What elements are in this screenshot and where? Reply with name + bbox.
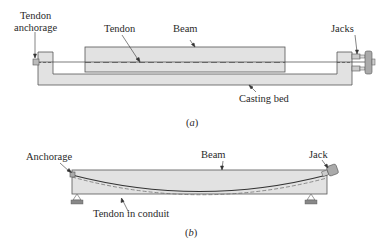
anchorage-b — [70, 172, 75, 177]
label-tendon-in-conduit: Tendon in conduit — [93, 208, 169, 220]
label-jack: Jack — [309, 149, 328, 161]
figure-b — [60, 160, 339, 213]
label-jacks: Jacks — [331, 23, 354, 35]
label-beam-a: Beam — [173, 23, 198, 35]
figure-a — [33, 32, 375, 92]
tendon-anchorage — [33, 59, 39, 65]
label-tendon-anchorage: Tendon anchorage — [14, 10, 57, 34]
caption-b: (b) — [185, 227, 197, 238]
label-line: anchorage — [14, 22, 57, 34]
label-tendon-a: Tendon — [104, 23, 135, 35]
label-line: Tendon — [14, 10, 57, 22]
label-casting-bed: Casting bed — [239, 93, 289, 105]
caption-a: (a) — [186, 117, 198, 128]
support-left — [71, 194, 83, 204]
label-beam-b: Beam — [201, 149, 226, 161]
label-anchorage: Anchorage — [26, 151, 72, 163]
beam-a — [85, 47, 285, 72]
jacks — [352, 51, 375, 74]
jack-b — [320, 164, 338, 179]
beam-b — [72, 170, 327, 194]
support-right — [305, 194, 317, 204]
